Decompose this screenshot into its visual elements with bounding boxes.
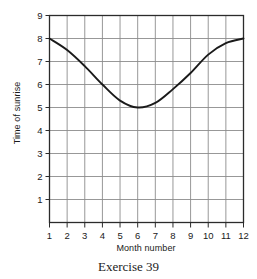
x-tick-label: 6	[135, 230, 140, 241]
x-tick-label: 8	[170, 230, 175, 241]
x-axis-ticks: 123456789101112	[47, 223, 249, 241]
horizontal-gridlines	[50, 16, 244, 200]
plot-frame	[50, 16, 244, 223]
x-tick-label: 4	[100, 230, 105, 241]
chart-plot-area: 123456789 123456789101112	[0, 0, 257, 279]
y-tick-label: 3	[37, 148, 42, 159]
y-tick-label: 5	[37, 102, 42, 113]
sunrise-curve	[50, 39, 244, 108]
y-axis-ticks: 123456789	[37, 10, 49, 205]
y-tick-label: 9	[37, 10, 42, 21]
x-tick-label: 1	[47, 230, 52, 241]
x-tick-label: 7	[153, 230, 158, 241]
x-tick-label: 3	[82, 230, 87, 241]
y-tick-label: 7	[37, 56, 42, 67]
data-curve	[50, 39, 244, 108]
x-tick-label: 5	[117, 230, 122, 241]
figure-sunrise-chart: 123456789 123456789101112 Time of sunris…	[0, 0, 257, 279]
figure-caption: Exercise 39	[0, 259, 257, 275]
x-tick-label: 10	[203, 230, 214, 241]
x-tick-label: 11	[221, 230, 231, 241]
x-tick-label: 12	[238, 230, 249, 241]
y-axis-title: Time of sunrise	[12, 43, 22, 183]
x-axis-title: Month number	[49, 243, 243, 253]
y-tick-label: 6	[37, 79, 42, 90]
y-tick-label: 4	[37, 125, 42, 136]
y-tick-label: 2	[37, 171, 42, 182]
y-tick-label: 1	[37, 194, 42, 205]
x-tick-label: 9	[188, 230, 193, 241]
y-tick-label: 8	[37, 33, 42, 44]
vertical-gridlines	[67, 16, 226, 223]
frame-rect	[50, 16, 244, 223]
x-tick-label: 2	[64, 230, 69, 241]
